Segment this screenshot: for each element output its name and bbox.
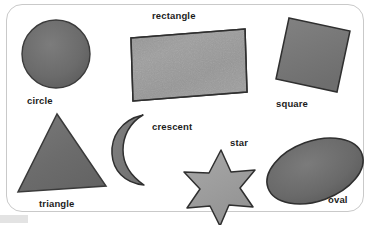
square-shape-icon: [272, 14, 354, 96]
triangle-shape-icon: [14, 112, 110, 196]
shape-label-rectangle: rectangle: [152, 11, 196, 21]
shape-label-square: square: [276, 99, 308, 109]
shape-label-circle: circle: [27, 96, 53, 106]
shape-label-oval: oval: [328, 195, 348, 205]
circle-shape-icon: [20, 18, 92, 90]
oval-shape-icon: [262, 134, 368, 208]
shape-item-square[interactable]: square: [272, 14, 368, 114]
shape-item-triangle[interactable]: triangle: [14, 112, 118, 212]
shapes-poster: circle rectangle: [0, 0, 375, 225]
rectangle-shape-icon: [128, 26, 250, 106]
shape-item-rectangle[interactable]: rectangle: [128, 8, 248, 108]
shape-label-star: star: [230, 138, 248, 148]
page-edge-artifact: [0, 215, 28, 223]
shape-label-triangle: triangle: [39, 199, 75, 209]
shape-item-oval[interactable]: oval: [262, 134, 372, 214]
shape-label-crescent: crescent: [152, 122, 192, 132]
star-shape-icon: [178, 148, 260, 225]
shape-item-circle[interactable]: circle: [20, 18, 100, 108]
